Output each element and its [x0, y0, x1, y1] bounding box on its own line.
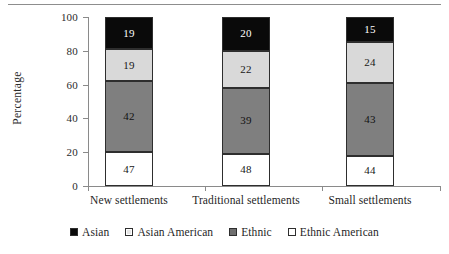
x-axis-line — [88, 186, 440, 187]
y-tick-mark-20 — [83, 152, 88, 153]
bar-segment-ethnic[interactable]: 39 — [222, 88, 270, 154]
bar-segment-asian[interactable]: 15 — [346, 17, 394, 42]
bar-segment-value: 20 — [240, 28, 251, 39]
bar-segment-asian-american[interactable]: 22 — [222, 51, 270, 88]
bar-segment-asian-american[interactable]: 24 — [346, 42, 394, 83]
x-axis-label-traditional-settlements: Traditional settlements — [186, 194, 306, 207]
bar-new-settlements[interactable]: 19 19 42 47 — [105, 17, 153, 186]
bar-segment-asian[interactable]: 20 — [222, 17, 270, 51]
legend-label-ethnic-american: Ethnic American — [300, 226, 379, 238]
y-tick-mark-40 — [83, 118, 88, 119]
bar-segment-value: 44 — [364, 165, 375, 176]
y-tick-label-40: 40 — [38, 113, 78, 124]
x-tick-mark-2 — [322, 186, 323, 191]
bar-segment-value: 39 — [240, 115, 251, 126]
bar-segment-value: 22 — [240, 64, 251, 75]
legend-swatch-icon-asian-american — [125, 228, 133, 236]
y-tick-mark-100 — [83, 17, 88, 18]
bar-segment-ethnic-american[interactable]: 48 — [222, 154, 270, 186]
chart-figure: Percentage 100 80 60 40 20 0 19 19 42 — [0, 0, 449, 254]
legend-label-asian-american: Asian American — [137, 226, 213, 238]
y-tick-label-80: 80 — [38, 46, 78, 57]
bar-segment-value: 48 — [240, 164, 251, 175]
bar-segment-value: 24 — [364, 57, 375, 68]
y-axis-title: Percentage — [11, 48, 23, 148]
y-tick-mark-60 — [83, 85, 88, 86]
bar-segment-ethnic[interactable]: 42 — [105, 81, 153, 152]
x-tick-mark-1 — [205, 186, 206, 191]
y-tick-label-0: 0 — [38, 181, 78, 192]
bar-segment-value: 15 — [364, 24, 375, 35]
y-axis-line — [88, 17, 89, 187]
x-axis-label-small-settlements: Small settlements — [310, 194, 430, 207]
bar-segment-ethnic[interactable]: 43 — [346, 83, 394, 156]
bar-segment-value: 47 — [123, 164, 134, 175]
legend-item-asian[interactable]: Asian — [70, 226, 109, 238]
x-tick-mark-0 — [88, 186, 89, 191]
y-tick-label-100: 100 — [38, 12, 78, 23]
plot-area: Percentage 100 80 60 40 20 0 19 19 42 — [0, 0, 449, 254]
legend-swatch-icon-ethnic — [229, 228, 237, 236]
y-tick-label-60: 60 — [38, 80, 78, 91]
bar-segment-value: 42 — [123, 111, 134, 122]
legend-label-ethnic: Ethnic — [241, 226, 272, 238]
bar-segment-value: 19 — [123, 28, 134, 39]
legend-swatch-icon-ethnic-american — [288, 228, 296, 236]
y-tick-label-20: 20 — [38, 147, 78, 158]
legend-item-ethnic[interactable]: Ethnic — [229, 226, 272, 238]
bar-small-settlements[interactable]: 15 24 43 44 — [346, 17, 394, 186]
bar-segment-asian[interactable]: 19 — [105, 17, 153, 49]
legend-label-asian: Asian — [82, 226, 109, 238]
bar-segment-value: 19 — [123, 60, 134, 71]
bar-segment-value: 43 — [364, 114, 375, 125]
bar-traditional-settlements[interactable]: 20 22 39 48 — [222, 17, 270, 186]
bar-segment-asian-american[interactable]: 19 — [105, 49, 153, 81]
x-tick-mark-3 — [440, 186, 441, 191]
bar-segment-ethnic-american[interactable]: 44 — [346, 156, 394, 186]
y-tick-mark-80 — [83, 51, 88, 52]
legend-item-ethnic-american[interactable]: Ethnic American — [288, 226, 379, 238]
bar-segment-ethnic-american[interactable]: 47 — [105, 152, 153, 186]
legend-swatch-icon-asian — [70, 228, 78, 236]
legend-item-asian-american[interactable]: Asian American — [125, 226, 213, 238]
x-axis-label-new-settlements: New settlements — [69, 194, 189, 207]
chart-legend: Asian Asian American Ethnic Ethnic Ameri… — [0, 226, 449, 238]
